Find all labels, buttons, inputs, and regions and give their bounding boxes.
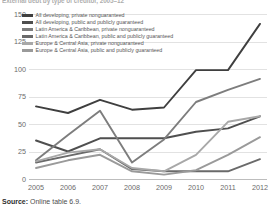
x-axis-line	[29, 179, 267, 180]
legend-swatch-icon	[22, 21, 33, 24]
chart-figure: External debt by type of creditor, 2005–…	[0, 0, 274, 211]
legend-swatch-icon	[22, 28, 33, 31]
legend-swatch-icon	[22, 42, 33, 45]
legend-item[interactable]: Latin America & Caribbean, private nongu…	[22, 26, 154, 33]
y-tick-label: 0	[2, 176, 26, 183]
legend-item[interactable]: All developing, private nonguaranteed	[22, 12, 154, 19]
x-tick-label: 2008	[115, 183, 149, 192]
x-tick-label: 2012	[243, 183, 274, 192]
legend-swatch-icon	[22, 35, 33, 38]
y-tick-label: 50	[2, 121, 26, 128]
source-text: Online table 6.9.	[30, 198, 81, 205]
x-tick-label: 2010	[179, 183, 213, 192]
x-tick-label: 2005	[19, 183, 53, 192]
x-axis-tick-labels: 20052006200720082009201020112012	[29, 183, 267, 195]
chart-legend: All developing, private nonguaranteedAll…	[22, 12, 154, 54]
y-tick-label: 100	[2, 66, 26, 73]
source-label: Source:	[2, 198, 28, 205]
legend-item[interactable]: Europe & Central Asia, private nonguaran…	[22, 40, 154, 47]
legend-swatch-icon	[22, 49, 33, 52]
x-tick-label: 2009	[147, 183, 181, 192]
legend-item-label: Europe & Central Asia, private nonguaran…	[36, 40, 144, 46]
legend-item-label: Latin America & Caribbean, private nongu…	[36, 26, 155, 32]
source-note: Source: Online table 6.9.	[2, 198, 81, 205]
legend-item[interactable]: All developing, public and publicly guar…	[22, 19, 154, 26]
legend-item-label: All developing, public and publicly guar…	[36, 19, 144, 25]
legend-item-label: Latin America & Caribbean, public and pu…	[36, 33, 174, 39]
legend-item[interactable]: Europe & Central Asia, public and public…	[22, 47, 154, 54]
series-line	[36, 116, 260, 171]
x-tick-label: 2007	[83, 183, 117, 192]
legend-item-label: All developing, private nonguaranteed	[36, 12, 125, 18]
y-tick-label: 75	[2, 93, 26, 100]
legend-item-label: Europe & Central Asia, public and public…	[36, 47, 163, 53]
y-tick-label: 25	[2, 148, 26, 155]
chart-title: External debt by type of creditor, 2005–…	[2, 0, 242, 6]
legend-swatch-icon	[22, 14, 33, 17]
legend-item[interactable]: Latin America & Caribbean, public and pu…	[22, 33, 154, 40]
x-tick-label: 2006	[51, 183, 85, 192]
x-tick-label: 2011	[211, 183, 245, 192]
